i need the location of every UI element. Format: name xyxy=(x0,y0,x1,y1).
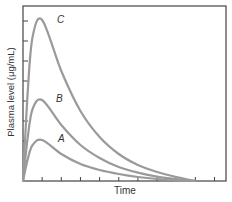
y-axis-label: Plasma level (μg/mL) xyxy=(5,42,19,142)
series-label-b: B xyxy=(56,93,63,104)
series-label-c: C xyxy=(57,14,64,25)
curves xyxy=(23,18,195,181)
x-axis-label: Time xyxy=(100,185,150,196)
series-label-a: A xyxy=(58,133,65,144)
chart-canvas xyxy=(0,0,232,202)
curve-b xyxy=(23,99,195,181)
plot-frame xyxy=(23,6,226,181)
curve-c xyxy=(23,18,195,181)
